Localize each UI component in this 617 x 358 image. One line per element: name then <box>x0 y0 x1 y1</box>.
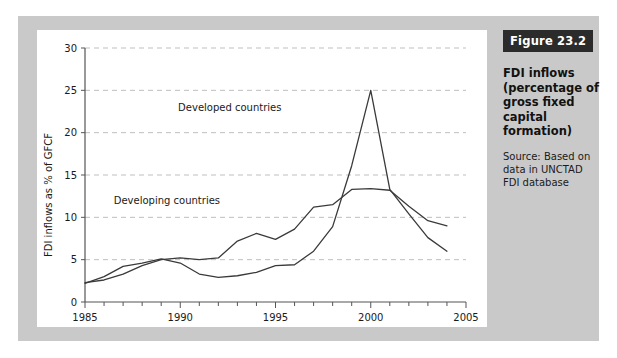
y-tick-label: 10 <box>64 212 77 223</box>
figure-title: FDI inflows (percentage of gross fixed c… <box>503 66 599 139</box>
x-tick-label: 1985 <box>72 312 97 323</box>
chart-card: 051015202530 19851990199520002005 Develo… <box>37 30 487 327</box>
y-tick-label: 0 <box>71 297 77 308</box>
y-tick-label: 15 <box>64 170 77 181</box>
series-lines <box>85 90 447 283</box>
y-axis: 051015202530 <box>64 43 85 308</box>
x-tick-label: 2000 <box>358 312 383 323</box>
series-annotation: Developed countries <box>178 102 281 113</box>
figure-container: 051015202530 19851990199520002005 Develo… <box>0 0 617 358</box>
y-axis-title: FDI inflows as % of GFCF <box>43 133 54 257</box>
x-tick-label: 1995 <box>263 312 288 323</box>
fdi-line-chart: 051015202530 19851990199520002005 Develo… <box>37 30 487 327</box>
x-tick-label: 1990 <box>168 312 193 323</box>
y-tick-label: 5 <box>71 254 77 265</box>
figure-number-badge: Figure 23.2 <box>503 30 593 52</box>
figure-caption-column: Figure 23.2 FDI inflows (percentage of g… <box>503 30 599 327</box>
series-annotation: Developing countries <box>114 195 220 206</box>
y-tick-label: 20 <box>64 127 77 138</box>
x-axis: 19851990199520002005 <box>72 302 478 323</box>
figure-source: Source: Based on data in UNCTAD FDI data… <box>503 150 599 189</box>
x-tick-label: 2005 <box>453 312 478 323</box>
series-line <box>85 90 447 283</box>
series-labels: Developed countriesDeveloping countries <box>114 102 282 206</box>
y-tick-label: 30 <box>64 43 77 54</box>
y-tick-label: 25 <box>64 85 77 96</box>
gridlines <box>85 48 466 260</box>
